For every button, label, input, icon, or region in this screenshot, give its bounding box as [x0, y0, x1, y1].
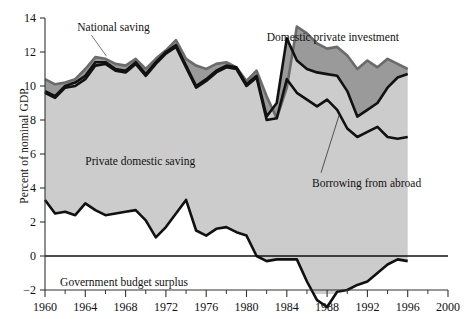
x-tick-label: 1984	[275, 300, 299, 314]
x-tick-label: 1992	[355, 300, 379, 314]
x-tick-label: 2000	[436, 300, 460, 314]
y-tick-label: 10	[24, 79, 36, 93]
national-saving-leader	[91, 35, 106, 56]
x-tick-label: 1968	[114, 300, 138, 314]
x-tick-label: 1972	[154, 300, 178, 314]
y-tick-label: 2	[30, 215, 36, 229]
annotation-label: Borrowing from abroad	[312, 177, 421, 190]
x-tick-label: 1960	[33, 300, 57, 314]
annotation-label: Private domestic saving	[85, 155, 195, 168]
y-tick-label: −2	[23, 283, 36, 297]
x-tick-label: 1964	[73, 300, 97, 314]
y-tick-label: 0	[30, 249, 36, 263]
x-tick-label: 1996	[396, 300, 420, 314]
y-tick-label: 12	[24, 45, 36, 59]
x-tick-label: 1980	[235, 300, 259, 314]
chart-canvas: −202468101214196019641968197219761980198…	[0, 0, 464, 319]
annotation-label: Government budget surplus	[60, 276, 188, 289]
x-tick-label: 1988	[315, 300, 339, 314]
y-tick-label: 4	[30, 181, 36, 195]
chart-root: Percent of nominal GDP −2024681012141960…	[0, 0, 464, 319]
y-tick-label: 6	[30, 147, 36, 161]
y-tick-label: 8	[30, 113, 36, 127]
annotation-label: Domestic private investment	[267, 31, 400, 44]
x-tick-label: 1976	[194, 300, 218, 314]
annotation-label: National saving	[77, 21, 150, 34]
y-tick-label: 14	[24, 11, 36, 25]
